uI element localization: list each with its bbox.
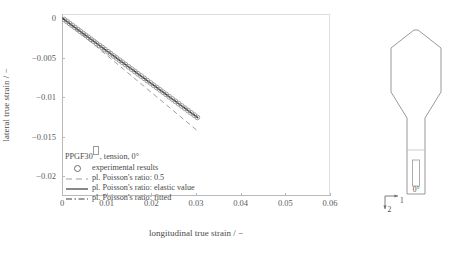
chart-legend: PPGF30, tension, 0° experimental results… <box>64 146 195 204</box>
legend-item-poisson-05: pl. Poisson's ratio: 0.5 <box>64 174 195 184</box>
y-tick-label: −0.02 <box>16 171 56 181</box>
specimen-angle-label: 0° <box>413 185 420 194</box>
y-tick-label: −0.01 <box>16 92 56 102</box>
y-axis-title: lateral true strain / − <box>1 68 11 141</box>
specimen-schematic: 0° 1 2 <box>355 14 470 244</box>
legend-label: pl. Poisson's ratio: fitted <box>90 193 171 204</box>
chart-panel: 00.010.020.030.040.050.06 0−0.005−0.01−0… <box>0 0 345 255</box>
dashdot-line-icon <box>64 195 90 203</box>
coordinate-axes-indicator: 1 2 <box>380 190 406 216</box>
axis-2-arrowhead <box>383 206 386 210</box>
axis-1-arrowhead <box>395 194 399 197</box>
solid-line-icon <box>64 185 90 193</box>
x-axis-title: longitudinal true strain / − <box>149 228 243 238</box>
x-tick-mark <box>330 193 331 196</box>
legend-title-condition: , tension, 0° <box>100 152 139 161</box>
series-poisson-05 <box>62 18 198 131</box>
y-tick-label: 0 <box>16 13 56 23</box>
dashed-line-icon <box>64 175 90 183</box>
figure-root: 00.010.020.030.040.050.06 0−0.005−0.01−0… <box>0 0 470 255</box>
legend-title-material: PPGF30 <box>65 152 93 161</box>
y-tick-label: −0.005 <box>16 53 56 63</box>
legend-title: PPGF30, tension, 0° <box>64 146 195 163</box>
legend-item-poisson-elastic: pl. Poisson's ratio: elastic value <box>64 184 195 194</box>
legend-item-experimental: experimental results <box>64 164 195 174</box>
x-tick-label: 0.06 <box>323 198 338 208</box>
y-tick-label: −0.015 <box>16 132 56 142</box>
x-tick-label: 0.05 <box>278 198 293 208</box>
extensometer-rectangle <box>413 160 420 186</box>
axis-1-label: 1 <box>400 196 404 205</box>
x-tick-label: 0.04 <box>233 198 248 208</box>
circle-marker-icon <box>64 165 90 172</box>
missing-glyph-icon <box>93 146 99 155</box>
axis-2-label: 2 <box>388 205 392 214</box>
legend-item-poisson-fitted: pl. Poisson's ratio: fitted <box>64 194 195 204</box>
